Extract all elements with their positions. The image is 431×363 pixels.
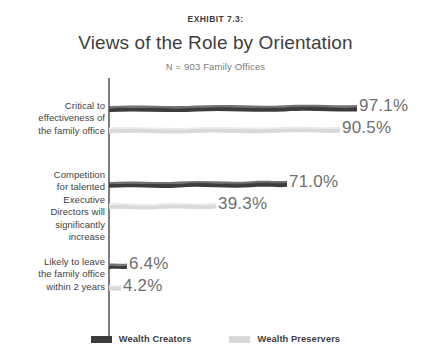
value-label-creators-competition: 71.0% bbox=[289, 171, 338, 193]
category-label-line: Critical to bbox=[5, 100, 105, 112]
category-label-line: Executive bbox=[5, 194, 105, 206]
value-label-creators-leave: 6.4% bbox=[129, 253, 169, 275]
value-label-preservers-leave: 4.2% bbox=[123, 275, 163, 297]
chart-legend: Wealth Creators Wealth Preservers bbox=[0, 333, 431, 345]
bar-wealth-preservers-leave[interactable] bbox=[109, 283, 121, 292]
bar-wealth-creators-leave[interactable] bbox=[109, 261, 127, 270]
category-label-line: the family office bbox=[5, 125, 105, 137]
legend-label-wealth-preservers: Wealth Preservers bbox=[257, 333, 340, 345]
chart-plot-area: Critical to effectiveness of the family … bbox=[0, 78, 431, 343]
category-label-competition-talent: Competition for talented Executive Direc… bbox=[5, 169, 105, 243]
legend-swatch-wealth-preservers bbox=[229, 336, 250, 343]
category-label-line: increase bbox=[5, 231, 105, 243]
category-label-line: Directors will bbox=[5, 206, 105, 218]
value-label-creators-critical: 97.1% bbox=[359, 95, 408, 117]
value-label-preservers-critical: 90.5% bbox=[342, 117, 391, 139]
bar-group-likely-to-leave: Likely to leave the family office within… bbox=[0, 256, 431, 302]
bar-wealth-preservers-critical[interactable] bbox=[109, 125, 340, 134]
bar-wealth-preservers-competition[interactable] bbox=[109, 201, 216, 210]
value-label-preservers-competition: 39.3% bbox=[218, 193, 267, 215]
chart-subtitle: N = 903 Family Offices bbox=[0, 60, 431, 73]
category-label-line: Competition bbox=[5, 169, 105, 181]
category-label-line: the family office bbox=[5, 268, 105, 280]
chart-title: Views of the Role by Orientation bbox=[0, 30, 431, 56]
category-label-critical-effectiveness: Critical to effectiveness of the family … bbox=[5, 100, 105, 137]
legend-item-wealth-creators[interactable]: Wealth Creators bbox=[91, 333, 192, 345]
category-label-line: effectiveness of bbox=[5, 112, 105, 124]
chart-header: EXHIBIT 7.3: Views of the Role by Orient… bbox=[0, 0, 431, 73]
category-label-line: for talented bbox=[5, 181, 105, 193]
bar-wealth-creators-competition[interactable] bbox=[109, 179, 287, 188]
category-label-line: Likely to leave bbox=[5, 256, 105, 268]
category-label-likely-to-leave: Likely to leave the family office within… bbox=[5, 256, 105, 293]
legend-swatch-wealth-creators bbox=[91, 336, 112, 343]
bar-group-critical-effectiveness: Critical to effectiveness of the family … bbox=[0, 98, 431, 148]
legend-label-wealth-creators: Wealth Creators bbox=[119, 333, 192, 345]
bar-group-competition-talent: Competition for talented Executive Direc… bbox=[0, 174, 431, 224]
legend-item-wealth-preservers[interactable]: Wealth Preservers bbox=[229, 333, 340, 345]
exhibit-label: EXHIBIT 7.3: bbox=[0, 14, 431, 25]
bar-wealth-creators-critical[interactable] bbox=[109, 103, 357, 112]
category-label-line: within 2 years bbox=[5, 281, 105, 293]
category-label-line: significantly bbox=[5, 219, 105, 231]
